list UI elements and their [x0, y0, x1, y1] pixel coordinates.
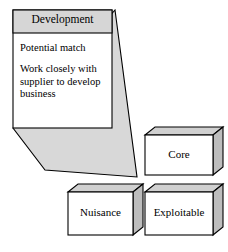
box-nuisance-label: Nuisance [68, 207, 133, 218]
box-core-side-face [213, 127, 223, 175]
box-core-top-face [145, 127, 223, 135]
diagram-canvas: Development Potential match Work closely… [0, 0, 228, 252]
box-exploitable-label: Exploitable [144, 207, 214, 218]
box-core-label: Core [145, 149, 213, 160]
callout-body-text: Potential match Work closely with suppli… [20, 42, 110, 101]
box-nuisance-side-face [133, 184, 143, 235]
callout-body-paragraph-2: Work closely with supplier to develop bu… [20, 63, 110, 100]
box-nuisance-top-face [68, 184, 143, 192]
box-exploitable-side-face [213, 184, 223, 235]
box-exploitable-top-face [145, 184, 223, 192]
callout-body-paragraph-1: Potential match [20, 42, 110, 54]
callout-header-label: Development [13, 14, 112, 26]
